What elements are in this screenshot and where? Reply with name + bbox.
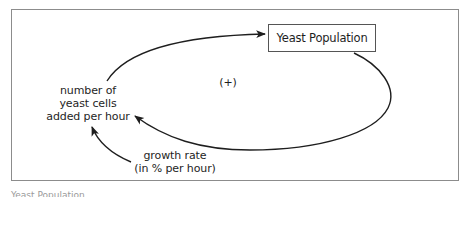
growth-rate-line-1: growth rate	[120, 149, 230, 162]
flow-label: number of yeast cells added per hour	[38, 84, 138, 123]
growth-rate-line-2: (in % per hour)	[120, 162, 230, 175]
flow-label-line-3: added per hour	[38, 110, 138, 123]
arrow-stock-to-flow	[135, 53, 391, 150]
loop-polarity-label: (+)	[216, 76, 240, 89]
stock-label: Yeast Population	[277, 31, 368, 45]
growth-rate-label: growth rate (in % per hour)	[120, 149, 230, 175]
flow-label-line-2: yeast cells	[38, 97, 138, 110]
flow-label-line-1: number of	[38, 84, 138, 97]
figure-caption: Yeast Population	[11, 190, 85, 197]
yeast-population-stock: Yeast Population	[268, 24, 376, 52]
arrow-flow-to-stock	[107, 34, 265, 81]
